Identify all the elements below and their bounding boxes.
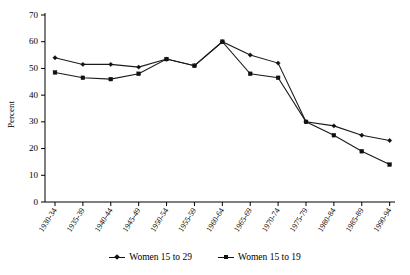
data-point xyxy=(137,72,141,76)
data-point xyxy=(276,61,280,65)
y-tick-label: 40 xyxy=(29,90,39,100)
data-point xyxy=(332,133,336,137)
y-tick-label: 60 xyxy=(29,36,39,46)
data-point xyxy=(332,124,336,128)
data-point xyxy=(360,149,364,153)
x-axis: 1930-341935-391940-441945-491950-541955-… xyxy=(37,202,395,234)
legend-entry-1[interactable]: Women 15 to 19 xyxy=(218,252,301,262)
x-tick-label: 1955-59 xyxy=(176,206,198,233)
data-point xyxy=(165,57,169,61)
legend-label: Women 15 to 29 xyxy=(129,252,192,262)
x-tick-label: 1985-89 xyxy=(344,206,366,233)
legend-marker-icon xyxy=(109,253,125,262)
data-point xyxy=(388,163,392,167)
x-tick-label: 1970-74 xyxy=(260,206,282,233)
data-point xyxy=(53,56,57,60)
data-point xyxy=(109,62,113,66)
x-tick-label: 1930-34 xyxy=(37,206,59,233)
x-tick-label: 1990-94 xyxy=(372,206,394,233)
y-axis-title: Percent xyxy=(6,101,16,128)
y-tick-label: 70 xyxy=(29,10,39,20)
data-point xyxy=(193,64,197,68)
series-line-1 xyxy=(55,42,390,165)
chart-legend: Women 15 to 29Women 15 to 19 xyxy=(0,252,410,262)
x-tick-label: 1935-39 xyxy=(65,206,87,233)
y-tick-label: 50 xyxy=(29,63,39,73)
data-series-layer xyxy=(53,40,392,167)
x-tick-label: 1940-44 xyxy=(93,206,115,233)
y-tick-label: 10 xyxy=(29,170,39,180)
data-point xyxy=(304,120,308,124)
x-tick-label: 1950-54 xyxy=(148,206,170,233)
x-tick-label: 1945-49 xyxy=(121,206,143,233)
x-tick-label: 1965-69 xyxy=(232,206,254,233)
data-point xyxy=(220,40,224,44)
chart-figure: 010203040506070 1930-341935-391940-44194… xyxy=(0,0,410,275)
y-axis: 010203040506070 xyxy=(29,10,45,207)
legend-label: Women 15 to 19 xyxy=(238,252,301,262)
data-point xyxy=(360,133,364,137)
y-tick-label: 0 xyxy=(34,197,39,207)
data-point xyxy=(109,77,113,81)
x-tick-label: 1980-84 xyxy=(316,206,338,233)
data-point xyxy=(81,62,85,66)
data-point xyxy=(136,65,140,69)
y-tick-label: 30 xyxy=(29,116,39,126)
series-line-0 xyxy=(55,42,390,141)
x-tick-label: 1975-79 xyxy=(288,206,310,233)
data-point xyxy=(248,53,252,57)
y-axis-title-label: Percent xyxy=(6,101,16,128)
y-tick-label: 20 xyxy=(29,143,39,153)
data-point xyxy=(387,138,391,142)
data-point xyxy=(81,76,85,80)
x-tick-label: 1960-64 xyxy=(204,206,226,233)
data-point xyxy=(276,76,280,80)
legend-entry-0[interactable]: Women 15 to 29 xyxy=(109,252,192,262)
legend-marker-icon xyxy=(218,253,234,262)
data-point xyxy=(53,71,57,75)
data-point xyxy=(248,72,252,76)
line-chart-canvas: 010203040506070 1930-341935-391940-44194… xyxy=(0,0,410,275)
